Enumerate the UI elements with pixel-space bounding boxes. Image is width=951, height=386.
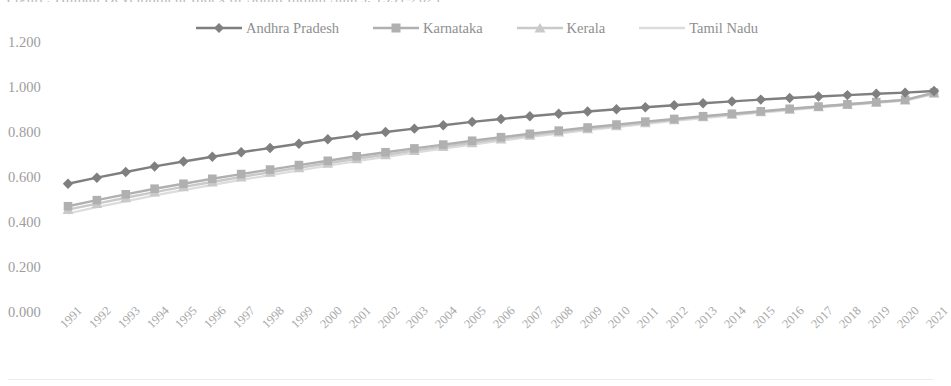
series-line	[68, 94, 934, 213]
data-point-marker	[728, 109, 737, 118]
data-point-marker	[381, 148, 390, 157]
data-point-marker	[179, 179, 188, 188]
data-point-marker	[439, 140, 448, 149]
data-point-marker	[582, 106, 592, 116]
y-axis-tick-label: 1.000	[8, 80, 64, 94]
data-point-marker	[351, 130, 361, 140]
data-point-marker	[92, 172, 102, 182]
data-point-marker	[64, 202, 73, 211]
data-point-marker	[612, 120, 621, 129]
data-point-marker	[526, 130, 535, 139]
data-point-marker	[756, 94, 766, 104]
data-point-marker	[611, 104, 621, 114]
data-point-marker	[266, 165, 275, 174]
data-point-marker	[785, 105, 794, 114]
data-point-marker	[149, 161, 159, 171]
data-point-marker	[121, 167, 131, 177]
y-axis-tick-label: 0.000	[8, 305, 64, 319]
series-line	[68, 93, 934, 209]
data-point-marker	[467, 117, 477, 127]
data-point-marker	[784, 93, 794, 103]
y-axis-tick-label: 0.800	[8, 125, 64, 139]
data-point-marker	[641, 117, 650, 126]
data-point-marker	[468, 136, 477, 145]
data-point-marker	[727, 96, 737, 106]
data-point-marker	[178, 156, 188, 166]
data-point-marker	[842, 90, 852, 100]
data-point-marker	[324, 157, 333, 166]
data-point-marker	[583, 123, 592, 132]
y-axis-tick-label: 0.200	[8, 260, 64, 274]
data-point-marker	[843, 100, 852, 109]
data-point-marker	[438, 120, 448, 130]
y-axis-tick-label: 0.600	[8, 170, 64, 184]
data-point-marker	[554, 109, 564, 119]
y-axis-tick-label: 0.400	[8, 215, 64, 229]
data-point-marker	[813, 91, 823, 101]
data-point-marker	[352, 152, 361, 161]
data-point-marker	[63, 179, 73, 189]
data-point-marker	[497, 133, 506, 142]
data-point-marker	[150, 184, 159, 193]
data-point-marker	[207, 152, 217, 162]
data-point-marker	[237, 170, 246, 179]
data-point-marker	[93, 196, 102, 205]
data-point-marker	[323, 134, 333, 144]
data-point-marker	[525, 111, 535, 121]
y-axis-tick-label: 1.200	[8, 35, 64, 49]
data-point-marker	[380, 127, 390, 137]
data-point-marker	[669, 100, 679, 110]
data-point-marker	[554, 126, 563, 135]
series-karnataka	[64, 88, 939, 210]
data-point-marker	[640, 102, 650, 112]
data-point-marker	[496, 114, 506, 124]
series-tamil-nadu	[68, 94, 934, 213]
bottom-divider	[8, 379, 933, 380]
data-point-marker	[814, 102, 823, 111]
data-point-marker	[872, 98, 881, 107]
data-point-marker	[409, 123, 419, 133]
data-point-marker	[410, 144, 419, 153]
data-point-marker	[208, 175, 217, 184]
data-point-marker	[265, 143, 275, 153]
data-point-marker	[871, 89, 881, 99]
data-point-marker	[294, 139, 304, 149]
data-point-marker	[121, 190, 130, 199]
data-point-marker	[236, 147, 246, 157]
data-point-marker	[699, 112, 708, 121]
data-point-marker	[757, 107, 766, 116]
data-point-marker	[698, 98, 708, 108]
data-point-marker	[295, 161, 304, 170]
data-point-marker	[670, 115, 679, 124]
